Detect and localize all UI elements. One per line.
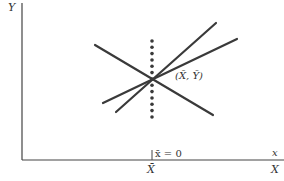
x-axis-lower-label: X [270, 163, 280, 176]
regression-diagram: Y x X x̄ = 0 X̄ (X̄, Ȳ) [0, 0, 284, 181]
x-axis-upper-label: x [272, 147, 278, 158]
centered-origin-label: x̄ = 0 [155, 148, 182, 159]
mean-point-label: (X̄, Ȳ) [175, 70, 203, 81]
mean-x-tick-label: X̄ [146, 163, 156, 176]
shallow-ascending-line [103, 39, 237, 103]
y-axis-label: Y [8, 1, 17, 14]
